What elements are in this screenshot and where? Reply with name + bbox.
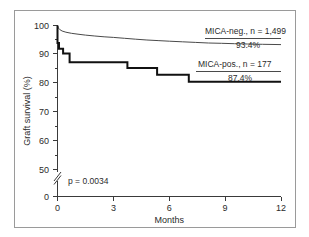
survival-plot: 100 90 80 70 60 50 0 0 3 6 9 12 Months G… <box>0 0 309 237</box>
series-label-mica-neg: MICA-neg., n = 1,499 <box>205 26 286 36</box>
x-axis-title: Months <box>155 215 185 225</box>
y-tick-label-50: 50 <box>39 165 49 175</box>
y-tick-label-90: 90 <box>39 49 49 59</box>
x-tick-label-6: 6 <box>167 203 172 213</box>
x-tick-label-12: 12 <box>276 203 286 213</box>
y-tick-label-100: 100 <box>34 21 49 31</box>
series-label-mica-pos: MICA-pos., n = 177 <box>198 59 272 69</box>
y-tick-label-80: 80 <box>39 78 49 88</box>
x-tick-label-0: 0 <box>55 203 60 213</box>
y-tick-marks <box>53 26 58 197</box>
x-tick-label-3: 3 <box>111 203 116 213</box>
p-value-label: p = 0.0034 <box>68 176 109 186</box>
pct-label-mica-pos: 87.4% <box>228 73 253 83</box>
pct-label-mica-neg: 93.4% <box>236 40 261 50</box>
x-tick-label-9: 9 <box>223 203 228 213</box>
y-axis-title: Graft survival (%) <box>22 76 32 146</box>
y-tick-label-70: 70 <box>39 107 49 117</box>
y-tick-label-0: 0 <box>44 192 49 202</box>
x-tick-marks <box>58 197 282 202</box>
figure-root: 100 90 80 70 60 50 0 0 3 6 9 12 Months G… <box>0 0 309 237</box>
y-tick-label-60: 60 <box>39 136 49 146</box>
